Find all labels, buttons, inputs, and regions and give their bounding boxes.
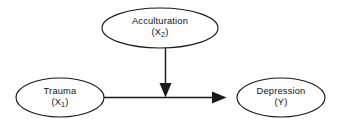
node-trauma-label: Trauma (X1) (16, 86, 104, 109)
arrowhead-into-depression-icon (212, 92, 227, 104)
node-depression-variable-prefix: (Y (275, 97, 285, 107)
node-acculturation-variable-subscript: 2 (161, 30, 165, 39)
node-trauma-variable: (X1) (16, 97, 104, 108)
diagram-canvas: Acculturation (X2) Trauma (X1) Depressio… (0, 0, 340, 126)
node-trauma-variable-subscript: 1 (61, 100, 65, 109)
node-acculturation-label: Acculturation (X2) (110, 16, 210, 39)
node-depression-name: Depression (237, 86, 325, 97)
node-acculturation-name: Acculturation (110, 16, 210, 27)
node-trauma-variable-suffix: ) (65, 97, 68, 107)
node-depression-variable: (Y) (237, 97, 325, 108)
node-trauma-variable-prefix: (X (51, 97, 61, 107)
node-trauma-name: Trauma (16, 86, 104, 97)
arrowhead-onto-path-icon (160, 83, 172, 98)
node-depression-label: Depression (Y) (237, 86, 325, 109)
node-depression-variable-suffix: ) (284, 97, 287, 107)
node-acculturation-variable-prefix: (X (151, 27, 161, 37)
node-acculturation-variable: (X2) (110, 27, 210, 38)
node-acculturation-variable-suffix: ) (165, 27, 168, 37)
